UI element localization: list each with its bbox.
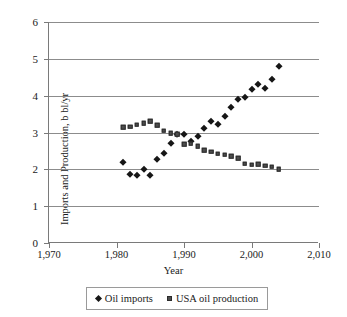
data-point <box>194 133 200 139</box>
y-axis-tick-label: 6 <box>8 16 38 28</box>
data-point <box>120 159 126 165</box>
y-gridline <box>49 96 319 97</box>
data-point <box>228 103 234 109</box>
y-gridline <box>49 22 319 23</box>
data-point <box>134 172 140 178</box>
data-point <box>161 128 166 133</box>
legend-item-usa-oil-production: USA oil production <box>167 293 258 304</box>
data-point <box>248 86 254 92</box>
data-point <box>141 121 146 126</box>
data-point <box>128 124 133 129</box>
y-gridline <box>49 206 319 207</box>
y-axis-tick <box>44 96 49 97</box>
data-point <box>255 80 261 86</box>
data-point <box>215 120 221 126</box>
square-marker-icon <box>167 296 172 301</box>
y-axis-tick-label: 1 <box>8 200 38 212</box>
data-point <box>140 166 146 172</box>
x-axis-tick-label: 1,990 <box>172 249 196 260</box>
legend-label: USA oil production <box>176 293 258 304</box>
data-point <box>242 162 247 167</box>
y-axis-tick <box>44 22 49 23</box>
data-point <box>127 171 133 177</box>
data-point <box>229 154 234 159</box>
data-point <box>167 140 173 146</box>
y-axis-tick <box>44 206 49 207</box>
data-point <box>201 125 207 131</box>
data-point <box>242 94 248 100</box>
legend-item-oil-imports: Oil imports <box>96 293 153 304</box>
data-point <box>121 125 126 130</box>
data-point <box>262 85 268 91</box>
plot-area: 01234561,9701,9801,9902,0002,010 <box>48 22 318 243</box>
data-point <box>249 162 254 167</box>
y-axis-tick-label: 3 <box>8 127 38 139</box>
y-axis-tick <box>44 169 49 170</box>
x-axis-tick-label: 1,970 <box>37 249 61 260</box>
data-point <box>236 156 241 161</box>
chart-legend: Oil imports USA oil production <box>86 287 268 310</box>
data-point <box>188 141 193 146</box>
data-point <box>269 76 275 82</box>
data-point <box>221 112 227 118</box>
y-axis-tick-label: 0 <box>8 237 38 249</box>
data-point <box>263 163 268 168</box>
diamond-marker-icon <box>95 295 102 302</box>
data-point <box>202 148 207 153</box>
data-point <box>175 132 180 137</box>
data-point <box>161 150 167 156</box>
data-point <box>168 131 173 136</box>
oil-imports-production-chart: Imports and Production, b bl/yr 01234561… <box>0 0 347 317</box>
data-point <box>208 118 214 124</box>
y-axis-tick-label: 5 <box>8 53 38 65</box>
y-gridline <box>49 59 319 60</box>
x-axis-title: Year <box>0 265 347 276</box>
data-point <box>182 142 187 147</box>
x-axis-tick-label: 1,980 <box>105 249 129 260</box>
data-point <box>148 119 153 124</box>
y-axis-tick-label: 4 <box>8 90 38 102</box>
x-axis-tick <box>117 243 118 248</box>
data-point <box>154 156 160 162</box>
x-axis-tick-label: 2,010 <box>307 249 331 260</box>
data-point <box>147 172 153 178</box>
data-point <box>256 162 261 167</box>
data-point <box>155 123 160 128</box>
legend-label: Oil imports <box>105 293 153 304</box>
data-point <box>235 96 241 102</box>
data-point <box>134 122 139 127</box>
data-point <box>275 63 281 69</box>
data-point <box>209 149 214 154</box>
y-axis-tick <box>44 59 49 60</box>
y-axis-tick <box>44 133 49 134</box>
x-axis-tick <box>252 243 253 248</box>
data-point <box>195 144 200 149</box>
x-axis-tick <box>49 243 50 248</box>
y-axis-tick-label: 2 <box>8 163 38 175</box>
data-point <box>269 164 274 169</box>
x-axis-tick-label: 2,000 <box>240 249 264 260</box>
data-point <box>276 167 281 172</box>
x-axis-tick <box>184 243 185 248</box>
data-point <box>215 152 220 157</box>
x-axis-tick <box>319 243 320 248</box>
data-point <box>222 152 227 157</box>
